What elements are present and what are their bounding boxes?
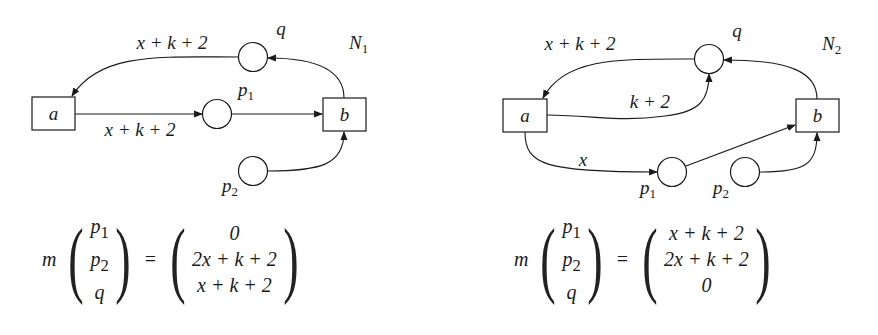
vector-entry: p1 (562, 213, 580, 246)
transition-label: b (340, 104, 350, 125)
vector-entry: p1 (90, 213, 108, 246)
equals-sign: = (145, 248, 156, 271)
marking-vector: ( 0 2x + k + 2 x + k + 2 ) (164, 217, 305, 301)
vector-entry: p2 (562, 246, 580, 279)
marking-vector: ( x + k + 2 2x + k + 2 0 ) (636, 217, 777, 301)
left-paren: ( (69, 217, 84, 301)
place-p1: p1 (638, 158, 687, 202)
arc-weight-a-q: k + 2 (630, 91, 671, 112)
left-paren: ( (170, 217, 185, 301)
right-paren: ) (115, 217, 130, 301)
right-paren: ) (587, 217, 602, 301)
right-paren: ) (283, 217, 298, 301)
place-label: q (732, 20, 742, 41)
place-p1: p1 (203, 79, 255, 129)
transition-label: a (49, 103, 59, 124)
net-name: N2 (821, 33, 841, 57)
marking-equation-n2: m ( p1 p2 q ) = ( x + k + 2 2x + k + 2 0… (514, 213, 777, 305)
place-p2: p2 (711, 158, 760, 202)
marking-function: m (514, 248, 528, 271)
marking-equation-n1: m ( p1 p2 q ) = ( 0 2x + k + 2 x + k + 2… (42, 213, 305, 305)
net-n1: a b q p1 p2 N1 x + k + 2 x + k + 2 (32, 18, 368, 199)
vector-entry: 0 (229, 220, 239, 246)
vector-entry: p2 (90, 246, 108, 279)
left-paren: ( (541, 217, 556, 301)
transition-b: b (323, 98, 366, 131)
transition-label: a (520, 105, 530, 126)
arc-weight-a-p1: x + k + 2 (103, 119, 176, 140)
arc-p2-to-b (760, 133, 817, 172)
vector-entry: x + k + 2 (669, 220, 744, 246)
arc-p2-to-b (268, 132, 344, 171)
transition-a: a (32, 97, 75, 130)
arc-b-to-q (268, 58, 344, 98)
arc-weight-q-a: x + k + 2 (135, 32, 208, 53)
vector-entry: 2x + k + 2 (192, 246, 277, 272)
arc-weight-a-p1: x (578, 149, 588, 170)
net-name: N1 (348, 32, 368, 56)
arc-q-to-a (72, 57, 238, 96)
vector-entry: q (95, 279, 105, 305)
vector-entry: 2x + k + 2 (664, 246, 749, 272)
right-paren: ) (755, 217, 770, 301)
petri-net-diagrams: a b q p1 p2 N1 x + k + 2 x + k + 2 (0, 0, 878, 240)
place-vector: ( p1 p2 q ) (62, 213, 136, 305)
place-label: p2 (220, 175, 238, 199)
place-label: p1 (236, 79, 254, 103)
place-q: q (695, 20, 743, 74)
marking-function: m (42, 248, 56, 271)
place-label: q (276, 18, 286, 39)
vector-entry: q (567, 279, 577, 305)
arc-a-to-q (547, 74, 709, 119)
arc-q-to-a (543, 59, 694, 98)
place-q: q (239, 18, 287, 72)
place-p2: p2 (220, 157, 268, 200)
arc-a-to-p1 (525, 132, 657, 172)
place-label: p1 (638, 177, 656, 201)
transition-a: a (503, 99, 547, 132)
left-paren: ( (642, 217, 657, 301)
transition-b: b (796, 99, 839, 132)
equals-sign: = (617, 248, 628, 271)
transition-label: b (813, 105, 823, 126)
place-label: p2 (711, 177, 729, 201)
place-vector: ( p1 p2 q ) (534, 213, 608, 305)
vector-entry: 0 (701, 272, 711, 298)
arc-weight-q-a: x + k + 2 (543, 33, 616, 54)
vector-entry: x + k + 2 (197, 272, 272, 298)
arc-b-to-q (724, 60, 817, 99)
net-n2: a b q p1 p2 N2 x + k + 2 k + 2 x (503, 20, 841, 201)
